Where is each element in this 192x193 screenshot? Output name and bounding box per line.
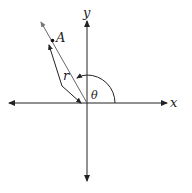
point-a [51,39,55,43]
polar-coordinate-diagram: y x A r θ [0,0,192,193]
radius-arrow-upper [49,45,62,86]
angle-theta-label: θ [91,89,98,102]
radius-arrow [62,86,81,103]
y-axis-label: y [82,5,91,20]
radius-label: r [63,68,70,83]
x-axis-label: x [170,95,178,110]
point-a-label: A [55,30,65,45]
